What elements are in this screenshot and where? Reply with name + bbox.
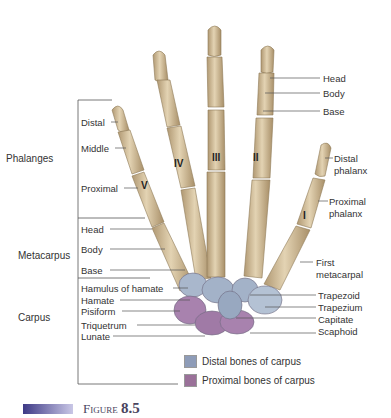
label-proximal-phalanx: Proximal [81,183,118,194]
label-trapezoid: Trapezoid [318,290,360,301]
label-thumb-distal-phalanx-line1: Distal [334,153,358,164]
finger-label-v: V [141,180,148,191]
label-metacarpal-base: Base [81,265,103,276]
label-distal-phalanx: Distal [81,117,105,128]
label-thumb-proximal-phalanx-line1: Proximal [329,196,366,207]
legend-item-proximal: Proximal bones of carpus [184,374,315,387]
group-label-metacarpus: Metacarpus [18,250,70,262]
label-trapezium: Trapezium [318,302,363,313]
label-first-metacarpal-line2: metacarpal [316,269,363,280]
figure-prefix: Figure [83,401,118,416]
group-label-carpus: Carpus [18,312,50,324]
finger-label-ii: II [253,152,259,163]
figure-caption: Figure 8.5 [23,400,140,417]
label-thumb-proximal-phalanx-line2: phalanx [329,208,362,219]
label-lunate: Lunate [81,331,110,342]
figure-number: 8.5 [121,400,140,416]
legend-label-proximal: Proximal bones of carpus [202,375,315,386]
legend-item-distal: Distal bones of carpus [184,355,301,368]
label-scaphoid: Scaphoid [318,326,358,337]
label-metacarpal-body: Body [81,244,103,255]
label-hamate: Hamate [81,295,114,306]
finger-label-i: I [303,210,306,221]
label-pisiform: Pisiform [81,306,115,317]
label-phalanx-head: Head [323,73,346,84]
legend-swatch-proximal [184,374,197,387]
finger-ii-bones [244,46,274,278]
label-metacarpal-head: Head [81,224,104,235]
label-hamulus-of-hamate: Hamulus of hamate [81,283,163,294]
label-thumb-distal-phalanx-line2: phalanx [334,165,367,176]
label-phalanx-body: Body [323,88,345,99]
caption-gradient-bar [23,404,73,414]
legend-swatch-distal [184,355,197,368]
label-phalanx-base: Base [323,106,345,117]
group-label-phalanges: Phalanges [6,153,53,165]
label-middle-phalanx: Middle [81,143,109,154]
legend-label-distal: Distal bones of carpus [202,356,301,367]
finger-label-iii: III [212,152,220,163]
label-first-metacarpal-line1: First [316,257,334,268]
label-capitate: Capitate [318,314,353,325]
finger-label-iv: IV [174,158,183,169]
figure-label: Figure 8.5 [83,400,140,417]
label-triquetrum: Triquetrum [81,320,127,331]
